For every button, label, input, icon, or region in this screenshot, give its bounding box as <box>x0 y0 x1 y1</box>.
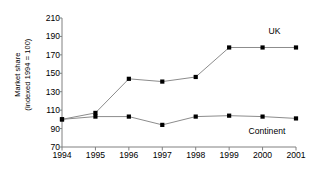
data-point-marker <box>93 114 97 118</box>
line-chart: Market share (indexed 1994 = 100) 709011… <box>0 0 309 173</box>
data-point-marker <box>194 75 198 79</box>
data-point-marker <box>127 77 131 81</box>
data-point-marker <box>227 45 231 49</box>
series-label-uk: UK <box>269 27 281 36</box>
series-line-uk <box>62 47 296 119</box>
data-point-marker <box>227 114 231 118</box>
x-axis-tick-label: 1994 <box>52 150 71 160</box>
x-axis-tick-label: 1999 <box>220 150 239 160</box>
data-point-marker <box>260 45 264 49</box>
x-axis-tick-label: 1995 <box>86 150 105 160</box>
data-point-marker <box>60 117 64 121</box>
x-axis-tick-label: 1997 <box>153 150 172 160</box>
x-axis-tick-label: 2001 <box>286 150 305 160</box>
data-point-marker <box>194 114 198 118</box>
data-point-marker <box>294 116 298 120</box>
data-point-marker <box>160 123 164 127</box>
x-axis-tick-label: 1996 <box>119 150 138 160</box>
data-point-marker <box>127 114 131 118</box>
series-label-continent: Continent <box>249 127 286 136</box>
plot-area <box>0 0 309 173</box>
x-axis-tick-label: 1998 <box>186 150 205 160</box>
data-point-marker <box>294 45 298 49</box>
data-point-marker <box>260 114 264 118</box>
data-point-marker <box>160 79 164 83</box>
data-point-marker <box>93 111 97 115</box>
x-axis-tick-label: 2000 <box>253 150 272 160</box>
